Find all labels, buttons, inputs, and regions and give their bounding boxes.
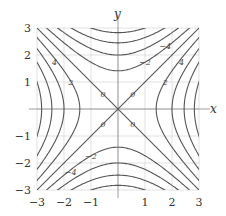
y-tick-label: 3 <box>24 22 31 35</box>
contour-label: 2 <box>162 78 168 87</box>
contour-label: −4 <box>65 168 77 177</box>
x-tick-label: 2 <box>169 196 176 209</box>
contour-label: −4 <box>159 42 171 51</box>
contour-label: 4 <box>178 58 184 67</box>
contour-plot: −4−200002442−2−4 −3−2−1123321−1−2−3 x y <box>0 0 226 216</box>
contour-label: 2 <box>67 78 73 87</box>
contour-label: 0 <box>130 120 135 129</box>
y-tick-label: −1 <box>15 130 31 143</box>
contour-label: 0 <box>101 90 106 99</box>
x-tick-label: −1 <box>83 196 99 209</box>
y-axis-label: y <box>113 7 121 21</box>
contour-label: 4 <box>51 58 57 67</box>
contour-label: 0 <box>101 120 106 129</box>
y-tick-label: −3 <box>15 184 31 197</box>
x-tick-label: −2 <box>56 196 72 209</box>
y-tick-label: 2 <box>24 49 31 62</box>
x-axis-label: x <box>210 102 217 116</box>
contour-label: 0 <box>130 90 135 99</box>
contour-curves <box>3 0 226 216</box>
x-tick-label: −3 <box>29 196 45 209</box>
y-tick-label: −2 <box>15 157 31 170</box>
x-tick-label: 3 <box>196 196 203 209</box>
y-tick-label: 1 <box>24 76 31 89</box>
tick-labels: −3−2−1123321−1−2−3 <box>15 22 203 209</box>
contour-label: −2 <box>85 152 97 161</box>
x-tick-label: 1 <box>142 196 149 209</box>
contour-label: −2 <box>139 58 151 67</box>
